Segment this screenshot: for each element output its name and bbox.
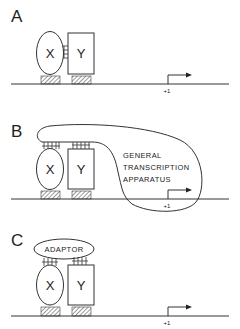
y-adaptor-contacts (72, 257, 88, 265)
start-site-label: +1 (164, 320, 172, 326)
transcription-arrow-icon (168, 75, 188, 84)
factor-x-label: X (46, 278, 55, 293)
factor-x-label: X (46, 46, 55, 61)
binding-site-x (41, 307, 60, 316)
panel-label-a: A (11, 7, 23, 26)
panel-b: B GENERAL TRANSCRIPTION APPARATUS X Y (11, 122, 229, 211)
y-gta-contacts (72, 142, 90, 149)
factor-x-label: X (46, 162, 55, 177)
panel-a: A X Y +1 (11, 7, 229, 94)
adaptor-label: ADAPTOR (45, 245, 84, 254)
binding-site-x (41, 191, 60, 199)
transcription-arrow-icon (168, 190, 188, 199)
factor-y-label: Y (77, 46, 86, 61)
factor-y-label: Y (77, 162, 86, 177)
transcription-arrow-icon (168, 307, 188, 316)
factor-y-label: Y (77, 278, 86, 293)
gta-label-line-1: GENERAL (123, 151, 162, 160)
transcription-diagram: A X Y +1 B GENERAL TRANSCRIPTION APPARAT… (0, 0, 240, 329)
panel-label-c: C (11, 231, 23, 250)
x-gta-contacts (42, 142, 60, 149)
start-site-label: +1 (164, 88, 172, 94)
xy-contacts (63, 46, 68, 58)
binding-site-x (41, 76, 60, 84)
start-site-label: +1 (164, 203, 172, 209)
panel-c: C ADAPTOR X Y +1 (11, 231, 229, 326)
gta-label-line-2: TRANSCRIPTION (123, 163, 189, 172)
binding-site-y (72, 76, 91, 84)
gta-label-line-3: APPARATUS (123, 175, 171, 184)
binding-site-y (72, 307, 91, 316)
binding-site-y (72, 191, 91, 199)
panel-label-b: B (11, 122, 22, 141)
